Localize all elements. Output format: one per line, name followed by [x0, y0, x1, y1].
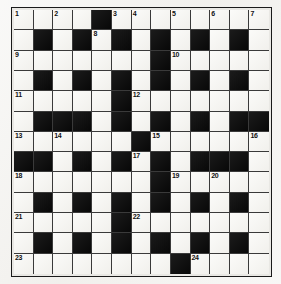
grid-cell-open[interactable]	[112, 132, 132, 152]
grid-cell-open[interactable]: 20	[210, 172, 230, 192]
grid-cell-open[interactable]	[53, 193, 73, 213]
grid-cell-open[interactable]	[191, 51, 211, 71]
grid-cell-open[interactable]	[210, 71, 230, 91]
grid-cell-open[interactable]: 19	[171, 172, 191, 192]
grid-cell-open[interactable]	[92, 132, 112, 152]
grid-cell-open[interactable]	[249, 213, 269, 233]
grid-cell-open[interactable]: 23	[14, 254, 34, 274]
grid-cell-open[interactable]	[171, 30, 191, 50]
grid-cell-open[interactable]	[132, 254, 152, 274]
grid-cell-open[interactable]: 14	[53, 132, 73, 152]
grid-cell-open[interactable]	[73, 132, 93, 152]
grid-cell-open[interactable]	[14, 233, 34, 253]
grid-cell-open[interactable]: 24	[191, 254, 211, 274]
grid-cell-open[interactable]	[171, 213, 191, 233]
grid-cell-open[interactable]	[92, 233, 112, 253]
crossword-grid[interactable]: 123456789101112131415161718192021222324	[14, 10, 269, 274]
grid-cell-open[interactable]	[210, 213, 230, 233]
grid-cell-open[interactable]	[73, 10, 93, 30]
grid-cell-open[interactable]	[132, 30, 152, 50]
grid-cell-open[interactable]	[210, 112, 230, 132]
grid-cell-open[interactable]	[53, 233, 73, 253]
grid-cell-open[interactable]	[112, 254, 132, 274]
grid-cell-open[interactable]	[73, 254, 93, 274]
grid-cell-open[interactable]	[92, 51, 112, 71]
grid-cell-open[interactable]	[73, 91, 93, 111]
grid-cell-open[interactable]	[191, 91, 211, 111]
grid-cell-open[interactable]	[53, 71, 73, 91]
grid-cell-open[interactable]: 6	[210, 10, 230, 30]
grid-cell-open[interactable]	[171, 71, 191, 91]
grid-cell-open[interactable]	[230, 213, 250, 233]
grid-cell-open[interactable]	[230, 254, 250, 274]
grid-cell-open[interactable]	[53, 213, 73, 233]
grid-cell-open[interactable]	[171, 132, 191, 152]
grid-cell-open[interactable]	[73, 213, 93, 233]
grid-cell-open[interactable]	[249, 71, 269, 91]
grid-cell-open[interactable]: 11	[14, 91, 34, 111]
grid-cell-open[interactable]	[92, 213, 112, 233]
grid-cell-open[interactable]	[53, 30, 73, 50]
grid-cell-open[interactable]: 18	[14, 172, 34, 192]
grid-cell-open[interactable]	[34, 10, 54, 30]
grid-cell-open[interactable]	[249, 254, 269, 274]
grid-cell-open[interactable]: 13	[14, 132, 34, 152]
grid-cell-open[interactable]	[249, 30, 269, 50]
grid-cell-open[interactable]: 10	[171, 51, 191, 71]
grid-cell-open[interactable]	[230, 10, 250, 30]
grid-cell-open[interactable]	[92, 91, 112, 111]
grid-cell-open[interactable]	[112, 51, 132, 71]
grid-cell-open[interactable]	[112, 172, 132, 192]
grid-cell-open[interactable]	[132, 233, 152, 253]
grid-cell-open[interactable]	[132, 112, 152, 132]
grid-cell-open[interactable]	[53, 152, 73, 172]
grid-cell-open[interactable]	[191, 172, 211, 192]
grid-cell-open[interactable]	[249, 91, 269, 111]
grid-cell-open[interactable]	[132, 71, 152, 91]
grid-cell-open[interactable]	[92, 71, 112, 91]
grid-cell-open[interactable]: 4	[132, 10, 152, 30]
grid-cell-open[interactable]	[249, 152, 269, 172]
grid-cell-open[interactable]	[230, 132, 250, 152]
grid-cell-open[interactable]	[210, 132, 230, 152]
grid-cell-open[interactable]: 7	[249, 10, 269, 30]
grid-cell-open[interactable]	[191, 132, 211, 152]
grid-cell-open[interactable]	[92, 112, 112, 132]
grid-cell-open[interactable]: 3	[112, 10, 132, 30]
grid-cell-open[interactable]	[14, 71, 34, 91]
grid-cell-open[interactable]	[132, 193, 152, 213]
grid-cell-open[interactable]	[132, 51, 152, 71]
grid-cell-open[interactable]	[34, 132, 54, 152]
grid-cell-open[interactable]	[151, 10, 171, 30]
grid-cell-open[interactable]	[92, 152, 112, 172]
grid-cell-open[interactable]: 5	[171, 10, 191, 30]
grid-cell-open[interactable]	[132, 172, 152, 192]
grid-cell-open[interactable]	[171, 91, 191, 111]
grid-cell-open[interactable]	[171, 193, 191, 213]
grid-cell-open[interactable]	[249, 193, 269, 213]
grid-cell-open[interactable]	[171, 112, 191, 132]
grid-cell-open[interactable]	[92, 193, 112, 213]
grid-cell-open[interactable]: 1	[14, 10, 34, 30]
grid-cell-open[interactable]	[171, 233, 191, 253]
grid-cell-open[interactable]	[249, 51, 269, 71]
grid-cell-open[interactable]	[14, 112, 34, 132]
grid-cell-open[interactable]	[92, 172, 112, 192]
grid-cell-open[interactable]	[191, 213, 211, 233]
grid-cell-open[interactable]	[210, 91, 230, 111]
grid-cell-open[interactable]	[210, 233, 230, 253]
grid-cell-open[interactable]	[151, 213, 171, 233]
grid-cell-open[interactable]	[73, 172, 93, 192]
grid-cell-open[interactable]	[249, 233, 269, 253]
grid-cell-open[interactable]: 22	[132, 213, 152, 233]
grid-cell-open[interactable]	[230, 172, 250, 192]
grid-cell-open[interactable]	[34, 213, 54, 233]
grid-cell-open[interactable]: 12	[132, 91, 152, 111]
grid-cell-open[interactable]	[53, 51, 73, 71]
grid-cell-open[interactable]	[230, 51, 250, 71]
grid-cell-open[interactable]	[210, 193, 230, 213]
grid-cell-open[interactable]	[34, 172, 54, 192]
grid-cell-open[interactable]	[53, 91, 73, 111]
grid-cell-open[interactable]	[191, 10, 211, 30]
grid-cell-open[interactable]	[230, 91, 250, 111]
